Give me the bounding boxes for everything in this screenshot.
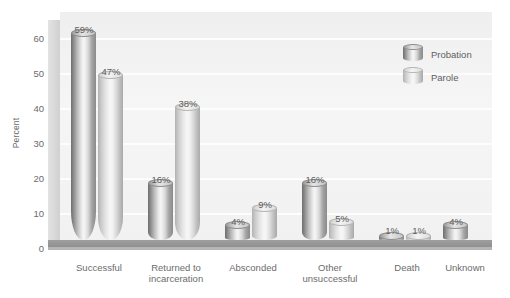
y-tick-20: 20 — [18, 174, 44, 184]
bar-parole-absconded[interactable] — [252, 208, 277, 240]
parole-cylinder-icon — [403, 70, 423, 84]
legend-item-parole[interactable]: Parole — [403, 70, 458, 84]
bar-probation-death[interactable] — [379, 236, 404, 240]
bar-parole-death[interactable] — [406, 236, 431, 240]
bar-probation-absconded[interactable] — [225, 225, 250, 240]
bar-body — [98, 75, 123, 240]
bar-value-parole-returned-to-incarceration: 38% — [170, 99, 206, 109]
bar-body — [148, 183, 173, 240]
bar-parole-returned-to-incarceration[interactable] — [175, 107, 200, 240]
legend-label-parole: Parole — [431, 72, 458, 83]
bar-probation-unknown[interactable] — [443, 225, 468, 240]
plot-side-wall — [48, 20, 60, 248]
y-tick-50: 50 — [18, 69, 44, 79]
bar-value-parole-successful: 47% — [93, 67, 129, 77]
bar-body — [302, 183, 327, 240]
bar-value-probation-other-unsuccessful: 16% — [297, 175, 333, 185]
bar-value-parole-other-unsuccessful: 5% — [324, 214, 360, 224]
y-tick-30: 30 — [18, 139, 44, 149]
bar-body — [252, 208, 277, 240]
bar-body — [71, 33, 96, 240]
bar-value-probation-absconded: 4% — [220, 217, 256, 227]
x-label-unknown: Unknown — [420, 262, 510, 273]
probation-cylinder-icon — [403, 47, 423, 61]
bar-probation-returned-to-incarceration[interactable] — [148, 183, 173, 240]
cylinder-cap — [403, 44, 423, 50]
y-tick-60: 60 — [18, 34, 44, 44]
bar-probation-successful[interactable] — [71, 33, 96, 240]
cylinder-cap — [403, 67, 423, 73]
legend-item-probation[interactable]: Probation — [403, 47, 472, 61]
bar-value-parole-death: 1% — [401, 226, 437, 236]
y-axis-ticks: 60 50 40 30 20 10 0 — [10, 0, 44, 298]
bar-body — [175, 107, 200, 240]
bar-parole-successful[interactable] — [98, 75, 123, 240]
bar-value-probation-successful: 59% — [66, 25, 102, 35]
y-tick-0: 0 — [18, 244, 44, 254]
bar-chart: Percent 60 50 40 30 20 10 0 59% — [0, 0, 510, 298]
bar-value-parole-absconded: 9% — [247, 200, 283, 210]
bar-value-probation-unknown: 4% — [438, 217, 474, 227]
bar-probation-other-unsuccessful[interactable] — [302, 183, 327, 240]
bar-value-probation-returned-to-incarceration: 16% — [143, 175, 179, 185]
bar-parole-other-unsuccessful[interactable] — [329, 222, 354, 240]
y-tick-10: 10 — [18, 209, 44, 219]
y-tick-40: 40 — [18, 104, 44, 114]
legend-label-probation: Probation — [431, 49, 472, 60]
